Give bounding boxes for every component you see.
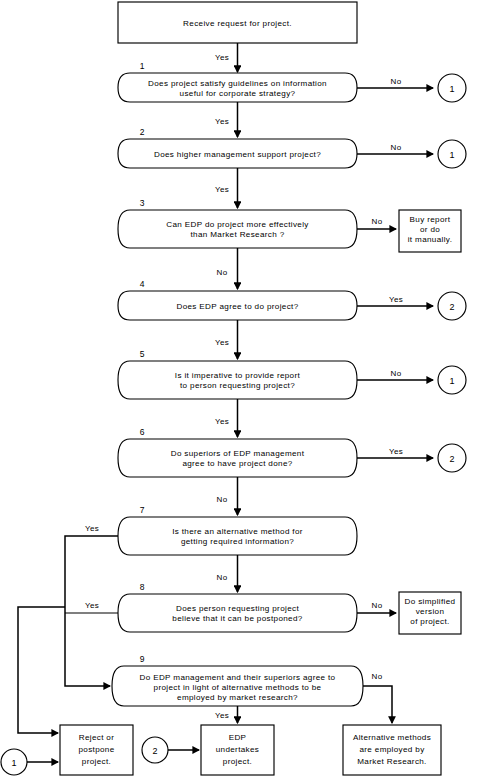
decision-5-line2: to person requesting project? — [180, 381, 295, 390]
decision-3-line2: than Market Research ? — [190, 230, 284, 239]
node-decision-8[interactable]: Does person requesting project believe t… — [118, 594, 357, 632]
step-number-8: 8 — [140, 582, 145, 592]
edge-label-d2-no: No — [391, 143, 402, 152]
edge-label-d5-no: No — [391, 369, 402, 378]
node-decision-4[interactable]: Does EDP agree to do project? — [118, 291, 357, 320]
connector-1-bottom-label: 1 — [11, 758, 16, 768]
connector-1-a[interactable]: 1 — [438, 74, 466, 102]
connector-1-bottom[interactable]: 1 — [1, 749, 27, 775]
edge-label-d6-yes: Yes — [389, 447, 403, 456]
step-number-7: 7 — [140, 505, 145, 515]
decision-8-line1: Does person requesting project — [176, 604, 299, 613]
alternative-methods-line3: Market Research. — [357, 757, 426, 766]
decision-7-line1: Is there an alternative method for — [172, 527, 303, 536]
step-number-4: 4 — [140, 279, 145, 289]
node-decision-7[interactable]: Is there an alternative method for getti… — [118, 517, 357, 555]
node-start[interactable]: Receive request for project. — [118, 2, 357, 43]
connector-2-a[interactable]: 2 — [438, 292, 466, 320]
step-number-5: 5 — [140, 349, 145, 359]
decision-9-line1: Do EDP management and their superiors ag… — [140, 673, 336, 682]
edge-label-d6-no: No — [217, 495, 228, 504]
buy-report-line1: Buy report — [410, 215, 451, 224]
step-number-1: 1 — [140, 61, 145, 71]
node-decision-6[interactable]: Do superiors of EDP management agree to … — [118, 439, 357, 477]
connector-2-bottom-label: 2 — [152, 746, 157, 756]
edp-undertakes-line2: undertakes — [216, 745, 260, 754]
edge-d9-no — [363, 686, 392, 723]
do-simplified-line2: version — [416, 607, 445, 616]
decision-1-line2: useful for corporate strategy? — [180, 89, 296, 98]
decision-9-line2: project in light of alternative methods … — [154, 683, 322, 692]
node-alternative-methods[interactable]: Alternative methods are employed by Mark… — [343, 725, 441, 775]
connector-1-a-label: 1 — [449, 84, 454, 94]
do-simplified-line1: Do simplified — [405, 597, 456, 606]
step-number-6: 6 — [140, 427, 145, 437]
node-do-simplified[interactable]: Do simplified version of project. — [399, 592, 461, 634]
edge-label-d9-yes: Yes — [215, 711, 229, 720]
do-simplified-line3: of project. — [410, 617, 449, 626]
edge-d7-yes — [65, 536, 118, 686]
edge-label-d4-yes-right: Yes — [389, 295, 403, 304]
decision-3-line1: Can EDP do project more effectively — [166, 220, 309, 229]
decision-6-line1: Do superiors of EDP management — [171, 449, 305, 458]
flowchart-canvas: Receive request for project. Yes 1 Does … — [0, 0, 477, 780]
connector-1-c[interactable]: 1 — [438, 366, 466, 394]
reject-postpone-line3: project. — [82, 757, 111, 766]
edge-label-d8-no: No — [372, 601, 383, 610]
edge-label-d8-yes: Yes — [85, 601, 99, 610]
edge-label-d4-yes: Yes — [215, 338, 229, 347]
connector-2-b-label: 2 — [449, 454, 454, 464]
decision-9-line3: employed by market research? — [177, 693, 298, 702]
edge-label-d2-yes: Yes — [215, 185, 229, 194]
edge-label-d1-no: No — [391, 77, 402, 86]
decision-1-line1: Does project satisfy guidelines on infor… — [148, 79, 327, 88]
edge-label-d1-yes: Yes — [215, 117, 229, 126]
connector-2-b[interactable]: 2 — [438, 444, 466, 472]
decision-2-line1: Does higher management support project? — [154, 150, 321, 159]
decision-5-line1: Is it imperative to provide report — [175, 371, 301, 380]
connector-2-a-label: 2 — [449, 302, 454, 312]
node-decision-9[interactable]: Do EDP management and their superiors ag… — [112, 666, 363, 706]
edge-label-start-yes: Yes — [215, 53, 229, 62]
step-number-2: 2 — [140, 127, 145, 137]
step-number-9: 9 — [140, 654, 145, 664]
step-number-3: 3 — [140, 198, 145, 208]
node-buy-report[interactable]: Buy report or do it manually. — [399, 210, 461, 252]
decision-4-line1: Does EDP agree to do project? — [176, 302, 298, 311]
connector-1-c-label: 1 — [449, 376, 454, 386]
buy-report-line3: it manually. — [408, 235, 453, 244]
alternative-methods-line1: Alternative methods — [353, 733, 431, 742]
node-edp-undertakes[interactable]: EDP undertakes project. — [201, 725, 274, 775]
connector-1-b[interactable]: 1 — [438, 140, 466, 168]
connector-1-b-label: 1 — [449, 150, 454, 160]
edge-label-d5-yes: Yes — [215, 417, 229, 426]
edp-undertakes-line1: EDP — [229, 733, 247, 742]
alternative-methods-line2: are employed by — [359, 745, 425, 754]
reject-postpone-line2: postpone — [78, 745, 114, 754]
node-decision-2[interactable]: Does higher management support project? — [118, 139, 357, 168]
reject-postpone-line1: Reject or — [79, 733, 115, 742]
decision-8-line2: believe that it can be postponed? — [172, 614, 302, 623]
edge-label-d3-yes: No — [217, 268, 228, 277]
edge-label-d7-no: No — [217, 573, 228, 582]
decision-6-line2: agree to have project done? — [182, 459, 292, 468]
edge-label-d9-no: No — [372, 672, 383, 681]
node-decision-1[interactable]: Does project satisfy guidelines on infor… — [118, 73, 357, 102]
start-label: Receive request for project. — [183, 19, 292, 28]
buy-report-line2: or do — [420, 225, 440, 234]
edge-label-d3-no: No — [372, 217, 383, 226]
decision-7-line2: getting required information? — [181, 537, 294, 546]
edge-left-rail-to-reject — [18, 607, 65, 733]
edge-label-d7-yes: Yes — [85, 524, 99, 533]
node-decision-3[interactable]: Can EDP do project more effectively than… — [118, 210, 357, 248]
node-reject-postpone[interactable]: Reject or postpone project. — [60, 725, 133, 775]
flowchart-svg: Receive request for project. Yes 1 Does … — [0, 0, 477, 780]
edp-undertakes-line3: project. — [223, 757, 252, 766]
connector-2-bottom[interactable]: 2 — [142, 737, 168, 763]
node-decision-5[interactable]: Is it imperative to provide report to pe… — [118, 361, 357, 399]
